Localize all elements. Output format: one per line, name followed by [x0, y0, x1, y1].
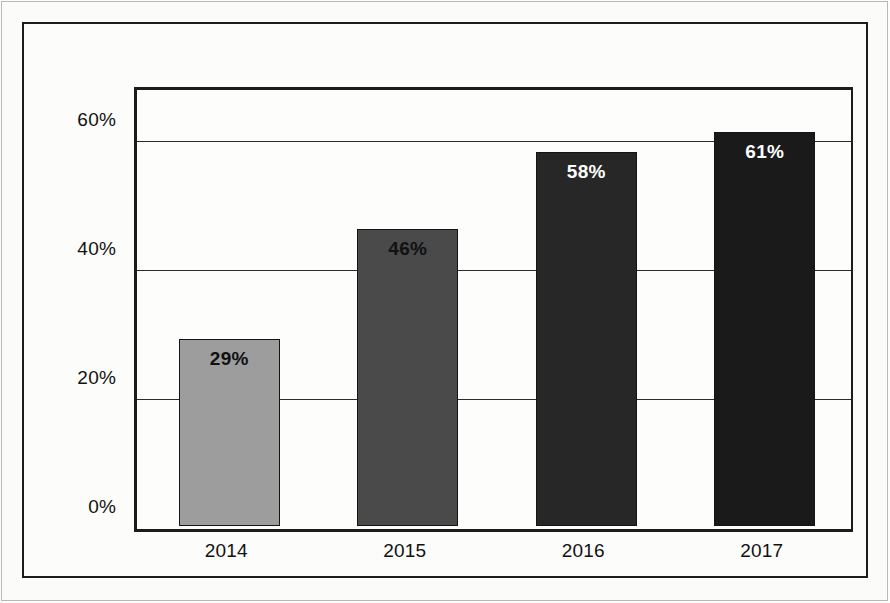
plot-area: 29%46%58%61%: [134, 87, 853, 532]
y-tick-label-60: 60%: [77, 109, 116, 131]
bar-slot-2016: 58%: [497, 93, 676, 526]
x-tick-label-2017: 2017: [673, 540, 852, 562]
bar-2016[interactable]: 58%: [536, 152, 637, 526]
bar-slot-2015: 46%: [319, 93, 498, 526]
bar-value-label-2015: 46%: [388, 239, 427, 258]
x-tick-label-2015: 2015: [316, 540, 495, 562]
bar-value-label-2014: 29%: [210, 349, 249, 368]
bar-slot-2017: 61%: [676, 93, 855, 526]
x-tick-label-2016: 2016: [494, 540, 673, 562]
x-tick-label-2014: 2014: [137, 540, 316, 562]
y-axis-tick-labels: 0%20%40%60%: [46, 87, 126, 532]
bar-2017[interactable]: 61%: [714, 132, 815, 526]
chart-page: 0%20%40%60% 29%46%58%61% 201420152016201…: [0, 0, 890, 603]
bar-value-label-2017: 61%: [745, 142, 784, 161]
y-tick-label-40: 40%: [77, 238, 116, 260]
bar-value-label-2016: 58%: [567, 162, 606, 181]
y-tick-label-20: 20%: [77, 367, 116, 389]
x-axis-tick-labels: 2014201520162017: [134, 540, 853, 580]
bar-2015[interactable]: 46%: [357, 229, 458, 526]
bar-series: 29%46%58%61%: [140, 93, 849, 526]
bar-slot-2014: 29%: [140, 93, 319, 526]
y-tick-label-0: 0%: [88, 496, 116, 518]
figure-frame: 0%20%40%60% 29%46%58%61% 201420152016201…: [22, 22, 868, 578]
plot-area-wrapper: 29%46%58%61%: [134, 87, 853, 532]
bar-2014[interactable]: 29%: [179, 339, 280, 526]
